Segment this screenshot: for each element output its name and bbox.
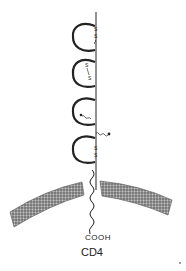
terminus-label: COOH [78,233,118,242]
svg-text:S: S [88,75,92,81]
domain-3 [73,98,95,124]
glycan-branch [96,133,108,136]
cytoplasmic-tail [89,170,94,234]
svg-text:S: S [94,145,98,151]
svg-text:S: S [94,33,98,39]
molecule-label: CD4 [72,246,112,258]
domain-1: S S [73,24,98,51]
domain-4: S S [73,136,98,162]
svg-text:S: S [85,62,89,68]
cd4-diagram: S S S S S S [0,0,186,271]
svg-text:S: S [94,26,98,32]
domain-2: S S [73,60,95,87]
svg-text:S: S [94,152,98,158]
membrane-left [10,182,84,227]
membrane-right [100,181,172,215]
